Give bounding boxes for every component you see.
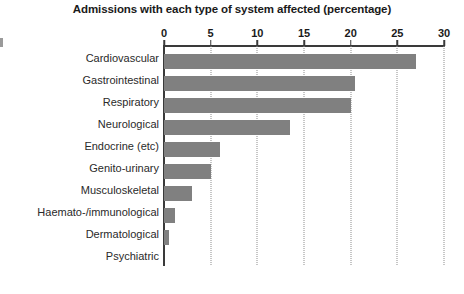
category-label-endocrine-etc: Endocrine (etc): [0, 140, 159, 152]
category-label-genito-urinary: Genito-urinary: [0, 162, 159, 174]
bar-respiratory: [164, 98, 351, 113]
x-tick-label-10: 10: [251, 27, 263, 39]
bar-row: [164, 182, 444, 204]
bar-row: [164, 50, 444, 72]
bar-haemato-immunological: [164, 208, 175, 223]
bar-endocrine-etc: [164, 142, 220, 157]
x-tick-label-30: 30: [438, 27, 450, 39]
x-tick-label-20: 20: [345, 27, 357, 39]
y-axis-category-labels: CardiovascularGastrointestinalRespirator…: [0, 46, 159, 265]
bar-neurological: [164, 120, 290, 135]
category-label-dermatological: Dermatological: [0, 228, 159, 240]
bar-row: [164, 94, 444, 116]
bar-cardiovascular: [164, 54, 416, 69]
category-label-haemato-immunological: Haemato-/immunological: [0, 206, 159, 218]
x-tick-label-5: 5: [208, 27, 214, 39]
category-label-psychiatric: Psychiatric: [0, 250, 159, 262]
bar-row: [164, 248, 444, 270]
category-label-respiratory: Respiratory: [0, 96, 159, 108]
bar-row: [164, 116, 444, 138]
x-tick-label-0: 0: [161, 27, 167, 39]
bar-genito-urinary: [164, 164, 211, 179]
bar-chart: Admissions with each type of system affe…: [0, 0, 464, 294]
bar-row: [164, 226, 444, 248]
bar-row: [164, 204, 444, 226]
category-label-musculoskeletal: Musculoskeletal: [0, 184, 159, 196]
category-label-neurological: Neurological: [0, 118, 159, 130]
bar-row: [164, 72, 444, 94]
category-label-cardiovascular: Cardiovascular: [0, 52, 159, 64]
bar-dermatological: [164, 230, 169, 245]
chart-title: Admissions with each type of system affe…: [0, 3, 464, 15]
x-tick-label-25: 25: [391, 27, 403, 39]
x-tick-label-15: 15: [298, 27, 310, 39]
bar-musculoskeletal: [164, 186, 192, 201]
bar-gastrointestinal: [164, 76, 355, 91]
bar-row: [164, 138, 444, 160]
bar-row: [164, 160, 444, 182]
category-label-gastrointestinal: Gastrointestinal: [0, 74, 159, 86]
plot-area: [164, 46, 444, 265]
